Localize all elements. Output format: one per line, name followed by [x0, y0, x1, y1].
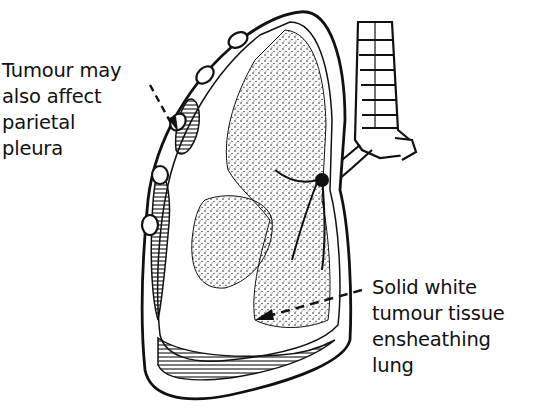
label-line: tumour tissue: [372, 301, 505, 327]
label-parietal-pleura: Tumour may also affect parietal pleura: [2, 58, 121, 162]
arrow-parietal: [150, 85, 172, 125]
label-line: pleura: [2, 136, 121, 162]
label-line: lung: [372, 353, 505, 379]
label-ensheathing-tumour: Solid white tumour tissue ensheathing lu…: [372, 275, 505, 379]
label-line: Solid white: [372, 275, 505, 301]
label-line: also affect: [2, 84, 121, 110]
label-line: ensheathing: [372, 327, 505, 353]
label-line: Tumour may: [2, 58, 121, 84]
label-line: parietal: [2, 110, 121, 136]
diagram-canvas: Tumour may also affect parietal pleura S…: [0, 0, 534, 409]
